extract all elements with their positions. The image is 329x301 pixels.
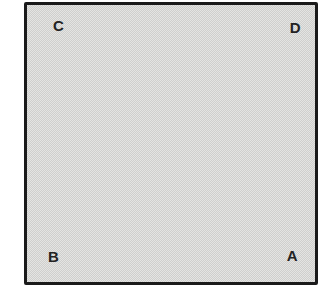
corner-label-bottom-right: A: [287, 248, 298, 263]
corner-label-top-right: D: [290, 20, 301, 35]
corner-label-top-left: C: [53, 18, 64, 33]
figure-canvas: C D B A: [0, 0, 329, 301]
corner-label-bottom-left: B: [48, 249, 59, 264]
labeled-square: C D B A: [24, 2, 318, 285]
